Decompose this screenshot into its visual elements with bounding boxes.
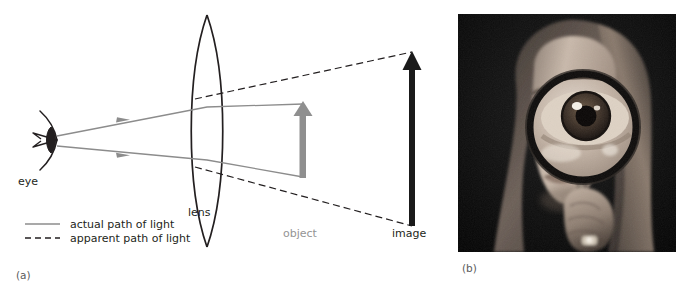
object-arrow [294, 101, 313, 178]
image-label: image [392, 227, 426, 240]
ring-icon [582, 236, 597, 245]
object-label: object [283, 227, 318, 240]
apparent-ray-upper [195, 52, 412, 99]
legend-label-actual: actual path of light [70, 218, 175, 231]
magnifier-photo [458, 14, 676, 252]
ray-diagram-svg: eye lens [0, 0, 455, 297]
panel-a-caption: (a) [16, 269, 31, 281]
actual-ray-lower [57, 146, 303, 177]
legend-label-apparent: apparent path of light [70, 232, 191, 245]
panel-b-photograph: (b) [455, 0, 694, 297]
legend-item-actual: actual path of light [25, 218, 175, 231]
image-arrow [403, 51, 422, 226]
panel-b-caption: (b) [462, 262, 477, 274]
panel-a-ray-diagram: eye lens [0, 0, 455, 297]
legend-item-apparent: apparent path of light [25, 232, 191, 245]
actual-ray-upper [57, 104, 303, 136]
magnifier-photo-svg [458, 14, 676, 252]
figure-container: eye lens [0, 0, 694, 297]
eye-label: eye [18, 175, 38, 188]
legend: actual path of light apparent path of li… [25, 218, 191, 245]
lens-label: lens [188, 206, 211, 219]
eye-icon [33, 111, 57, 170]
